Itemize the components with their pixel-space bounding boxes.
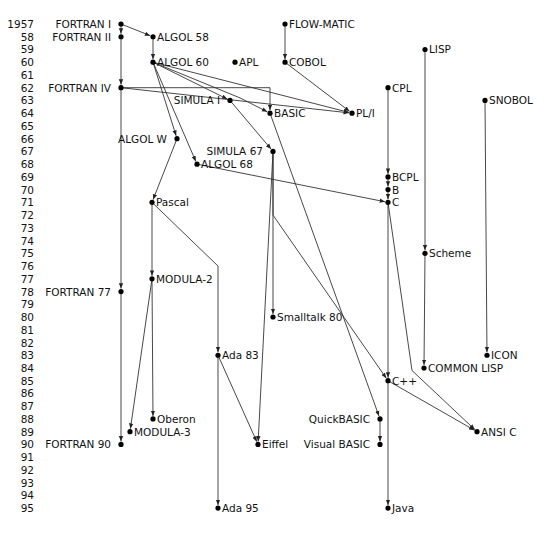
- node-dot: [232, 60, 237, 65]
- year-label: 70: [21, 184, 34, 196]
- year-label: 71: [21, 196, 34, 208]
- language-node-scheme: Scheme: [422, 247, 471, 259]
- language-label: Oberon: [157, 413, 196, 425]
- year-label: 65: [21, 120, 34, 132]
- node-dot: [149, 200, 154, 205]
- influence-edge-algolw-to-pascal: [153, 139, 177, 200]
- language-node-eiffel: Eiffel: [255, 438, 288, 450]
- language-node-algol60: ALGOL 60: [150, 56, 209, 68]
- influence-edge-modula2-to-oberon: [152, 279, 153, 416]
- node-dot: [118, 85, 123, 90]
- language-node-icon: ICON: [484, 349, 517, 361]
- language-node-visualbasic: Visual BASIC: [304, 438, 383, 450]
- node-dot: [474, 429, 479, 434]
- node-dot: [385, 200, 390, 205]
- language-node-algol68: ALGOL 68: [194, 158, 253, 170]
- language-label: QuickBASIC: [309, 413, 370, 425]
- language-label: APL: [239, 56, 259, 68]
- language-label: Pascal: [156, 196, 189, 208]
- node-dot: [174, 136, 179, 141]
- node-dot: [255, 442, 260, 447]
- node-dot: [385, 174, 390, 179]
- year-label: 80: [21, 311, 34, 323]
- year-label: 94: [21, 489, 35, 501]
- year-label: 61: [21, 69, 34, 81]
- year-label: 85: [21, 375, 34, 387]
- influence-edge-snobol-to-icon: [485, 100, 487, 352]
- language-node-algol58: ALGOL 58: [150, 31, 209, 43]
- node-dot: [349, 111, 354, 116]
- language-label: BCPL: [392, 171, 419, 183]
- language-label: FORTRAN 77: [45, 286, 111, 298]
- year-label: 74: [21, 235, 35, 247]
- language-node-b: B: [385, 184, 399, 196]
- influence-edge-fortran4-to-pl1: [121, 88, 349, 113]
- year-label: 69: [21, 171, 34, 183]
- node-dot: [484, 353, 489, 358]
- language-node-java: Java: [385, 502, 414, 514]
- year-label: 68: [21, 158, 34, 170]
- language-node-fortran90: FORTRAN 90: [45, 438, 123, 450]
- influence-edge-c-to-ansic: [388, 202, 475, 429]
- year-label: 82: [21, 337, 34, 349]
- node-dot: [377, 416, 382, 421]
- language-label: COMMON LISP: [428, 362, 503, 374]
- language-node-cobol: COBOL: [282, 56, 325, 68]
- year-label: 58: [21, 31, 34, 43]
- node-dot: [282, 60, 287, 65]
- year-label: 64: [21, 107, 35, 119]
- language-node-pl1: PL/I: [349, 107, 374, 119]
- language-node-cpp: C++: [385, 375, 417, 387]
- language-label: B: [392, 184, 399, 196]
- language-node-ansic: ANSI C: [474, 426, 516, 438]
- language-node-commonlisp: COMMON LISP: [421, 362, 503, 374]
- language-node-apl: APL: [232, 56, 258, 68]
- node-dot: [385, 506, 390, 511]
- node-dot: [422, 47, 427, 52]
- language-node-pascal: Pascal: [149, 196, 188, 208]
- node-dot: [215, 353, 220, 358]
- language-label: SIMULA I: [174, 94, 220, 106]
- language-node-simula1: SIMULA I: [174, 94, 233, 106]
- language-nodes: FORTRAN IFORTRAN IIALGOL 58FLOW-MATICLIS…: [45, 18, 533, 514]
- influence-edge-fortran1-to-algol58: [121, 24, 150, 36]
- language-node-basic: BASIC: [267, 107, 305, 119]
- language-node-snobol: SNOBOL: [482, 94, 533, 106]
- language-label: CPL: [392, 82, 412, 94]
- year-axis: 1957585960616263646566676869707172737475…: [7, 18, 34, 514]
- influence-edge-simula67-to-eiffel: [258, 151, 273, 441]
- node-dot: [385, 378, 390, 383]
- year-label: 72: [21, 209, 34, 221]
- year-label: 77: [21, 273, 34, 285]
- node-dot: [227, 98, 232, 103]
- language-label: FORTRAN I: [55, 18, 111, 30]
- node-dot: [118, 21, 123, 26]
- node-dot: [150, 34, 155, 39]
- language-label: SNOBOL: [489, 94, 533, 106]
- influence-edge-modula2-to-modula3: [130, 279, 152, 429]
- year-label: 63: [21, 94, 34, 106]
- year-label: 78: [21, 286, 34, 298]
- language-label: FORTRAN 90: [45, 438, 111, 450]
- language-node-c: C: [385, 196, 399, 208]
- year-label: 1957: [7, 18, 34, 30]
- year-label: 81: [21, 324, 34, 336]
- language-node-fortran1: FORTRAN I: [55, 18, 123, 30]
- year-label: 75: [21, 247, 34, 259]
- node-dot: [377, 442, 382, 447]
- year-label: 86: [21, 387, 35, 399]
- language-label: ANSI C: [481, 426, 516, 438]
- language-label: ALGOL W: [118, 133, 168, 145]
- language-label: COBOL: [289, 56, 326, 68]
- language-label: LISP: [429, 43, 451, 55]
- language-label: BASIC: [274, 107, 305, 119]
- language-node-cpl: CPL: [385, 82, 411, 94]
- language-node-algolw: ALGOL W: [118, 133, 180, 145]
- year-label: 59: [21, 43, 34, 55]
- language-label: Smalltalk 80: [277, 311, 342, 323]
- influence-edge-algol60-to-algolw: [153, 62, 176, 136]
- language-label: Ada 95: [222, 502, 259, 514]
- influence-edge-simula1-to-simula67: [230, 100, 271, 149]
- language-node-bcpl: BCPL: [385, 171, 418, 183]
- year-label: 87: [21, 400, 34, 412]
